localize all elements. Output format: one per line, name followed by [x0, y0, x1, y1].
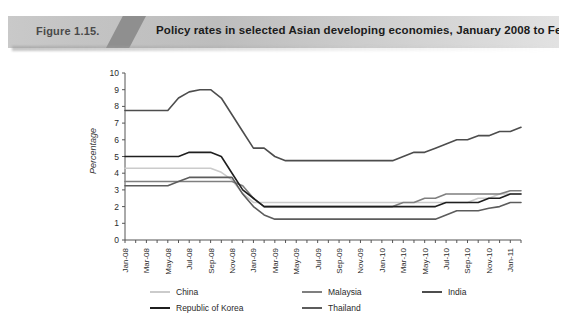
svg-text:May-10: May-10: [421, 247, 430, 274]
svg-text:Jan-09: Jan-09: [249, 247, 258, 272]
svg-text:0: 0: [114, 235, 119, 245]
svg-text:6: 6: [114, 135, 119, 145]
svg-text:Nov-10: Nov-10: [485, 247, 494, 273]
legend-item-india: India: [422, 286, 466, 298]
figure-title: Policy rates in selected Asian developin…: [156, 24, 559, 36]
chart-legend: China Malaysia India Republic of Korea T…: [150, 286, 550, 320]
svg-text:May-08: May-08: [164, 247, 173, 274]
legend-swatch-china: [150, 291, 170, 294]
svg-text:9: 9: [114, 85, 119, 95]
figure-header-banner: Figure 1.15. Policy rates in selected As…: [8, 16, 559, 48]
svg-text:2: 2: [114, 202, 119, 212]
legend-item-china: China: [150, 286, 198, 298]
legend-swatch-republic-of-korea: [150, 307, 170, 310]
svg-text:1: 1: [114, 218, 119, 228]
banner-drop-shadow: [12, 46, 559, 51]
legend-swatch-malaysia: [302, 291, 322, 294]
svg-text:Sep-10: Sep-10: [463, 247, 472, 273]
svg-text:Jan-11: Jan-11: [506, 247, 515, 271]
svg-text:Sep-08: Sep-08: [207, 247, 216, 273]
legend-label-china: China: [176, 287, 198, 297]
svg-text:Nov-08: Nov-08: [228, 247, 237, 273]
svg-text:Mar-08: Mar-08: [142, 247, 151, 273]
legend-label-malaysia: Malaysia: [328, 287, 362, 297]
legend-item-republic-of-korea: Republic of Korea: [150, 302, 244, 314]
banner-wedge-divider: [106, 16, 146, 48]
svg-text:Nov-09: Nov-09: [356, 247, 365, 273]
svg-text:10: 10: [110, 68, 120, 78]
svg-text:Mar-09: Mar-09: [271, 247, 280, 273]
svg-text:Sep-09: Sep-09: [335, 247, 344, 273]
svg-text:Jul-10: Jul-10: [442, 247, 451, 269]
legend-label-republic-of-korea: Republic of Korea: [176, 303, 244, 313]
legend-label-thailand: Thailand: [328, 303, 361, 313]
legend-label-india: India: [448, 287, 466, 297]
svg-text:Jan-10: Jan-10: [378, 247, 387, 272]
svg-text:8: 8: [114, 101, 119, 111]
svg-text:7: 7: [114, 118, 119, 128]
legend-item-thailand: Thailand: [302, 302, 361, 314]
svg-text:Mar-10: Mar-10: [399, 247, 408, 273]
legend-item-malaysia: Malaysia: [302, 286, 362, 298]
svg-text:4: 4: [114, 168, 119, 178]
svg-text:Jan-08: Jan-08: [121, 247, 130, 272]
svg-text:Jul-09: Jul-09: [314, 247, 323, 269]
svg-text:5: 5: [114, 152, 119, 162]
figure-number: Figure 1.15.: [36, 25, 100, 37]
svg-text:May-09: May-09: [292, 247, 301, 274]
svg-text:Jul-08: Jul-08: [185, 247, 194, 269]
legend-swatch-thailand: [302, 307, 322, 310]
legend-swatch-india: [422, 291, 442, 294]
svg-text:3: 3: [114, 185, 119, 195]
